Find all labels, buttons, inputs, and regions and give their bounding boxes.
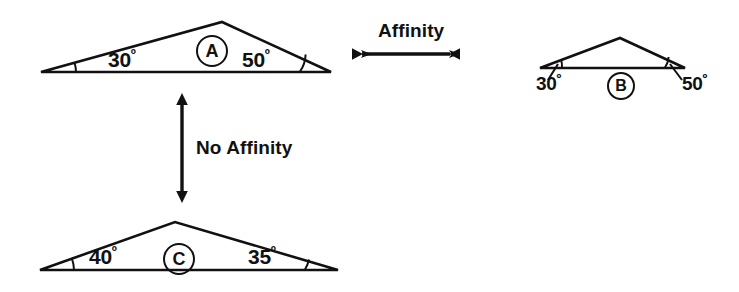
no-affinity-arrow-group [176,93,188,203]
triangle-b-letter-badge: B [607,72,635,100]
triangle-a-letter: A [206,41,219,62]
degree-symbol: º [265,46,270,62]
affinity-label: Affinity [378,21,444,40]
triangle-a-right-angle-label: 50º [242,49,270,70]
degree-symbol: º [131,46,136,62]
figure-canvas: 30º 50º A Affinity No Affinity 30º 50º B… [0,0,739,292]
triangle-c-left-angle-label: 40º [89,246,117,267]
triangle-b-right-angle-value: 50 [682,73,703,94]
affinity-arrowhead-right [449,48,460,60]
triangle-b-left-angle-arc [561,60,562,68]
triangle-a-left-angle-value: 30 [108,48,131,71]
degree-symbol: º [271,243,276,259]
triangle-c-right-angle-label: 35º [248,246,276,267]
triangle-c-right-angle-value: 35 [248,245,271,268]
triangle-b-letter: B [615,77,627,95]
triangle-a-group [41,22,331,72]
triangle-a-right-angle-value: 50 [242,48,265,71]
triangle-c-letter: C [173,249,186,270]
degree-symbol: º [112,243,117,259]
triangle-a-outline [41,22,331,72]
affinity-arrowhead-left [352,48,363,60]
triangle-a-letter-badge: A [196,35,228,67]
affinity-arrow-group [352,48,460,60]
no-affinity-label: No Affinity [196,138,292,157]
triangle-b-right-angle-label: 50º [682,74,707,93]
triangle-c-left-angle-value: 40 [89,245,112,268]
degree-symbol: º [557,71,561,86]
degree-symbol: º [703,71,707,86]
triangle-c-letter-badge: C [163,243,195,275]
triangle-b-left-angle-label: 30º [536,74,561,93]
no-affinity-arrowhead-down [176,191,188,203]
no-affinity-arrowhead-up [176,93,188,105]
triangle-a-left-angle-label: 30º [108,49,136,70]
triangle-c-left-angle-arc [72,259,74,270]
triangle-a-left-angle-arc [74,62,76,71]
triangle-b-left-angle-value: 30 [536,73,557,94]
